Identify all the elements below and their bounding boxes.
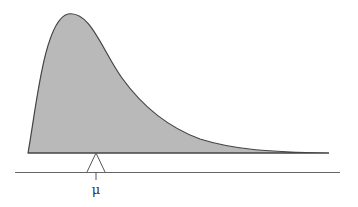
mean-marker-triangle	[87, 153, 105, 172]
mean-label: μ	[92, 182, 100, 197]
skewed-distribution-diagram	[0, 0, 358, 207]
density-curve-area	[28, 14, 329, 153]
